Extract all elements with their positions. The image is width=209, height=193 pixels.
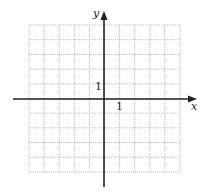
x-axis-label: x: [191, 100, 198, 113]
coordinate-plane: x y 1 1: [0, 0, 209, 193]
y-tick-label: 1: [95, 80, 102, 93]
y-axis-label: y: [92, 7, 100, 20]
y-axis-arrow-icon: [101, 11, 108, 20]
x-tick-label: 1: [116, 100, 123, 113]
